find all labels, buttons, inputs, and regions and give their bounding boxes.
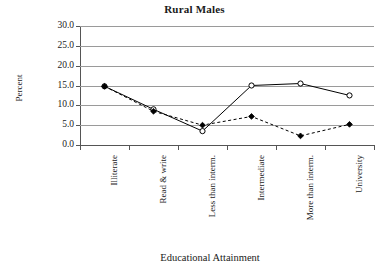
x-category-label: Illiterate xyxy=(109,155,119,185)
y-tick-label: 20.0 xyxy=(38,61,74,71)
series-line xyxy=(105,86,350,136)
chart-container: Rural Males Percent 0.05.010.015.020.025… xyxy=(0,0,389,271)
y-tick-label: 15.0 xyxy=(38,81,74,91)
data-point-open-circle xyxy=(249,83,254,88)
y-tick-label: 30.0 xyxy=(38,21,74,31)
data-point-open-circle xyxy=(200,129,205,134)
series-layer xyxy=(80,26,374,145)
x-category-label: Less than interm. xyxy=(207,155,217,217)
x-tick-marks-group xyxy=(80,145,374,151)
plot-area xyxy=(80,26,374,145)
chart-title: Rural Males xyxy=(0,3,389,15)
x-axis-title: Educational Attainment xyxy=(60,252,360,263)
x-tick-mark xyxy=(374,145,375,150)
x-category-label: University xyxy=(354,155,364,193)
x-tick-mark xyxy=(129,145,130,150)
data-point-filled-diamond xyxy=(347,121,353,127)
data-point-open-circle xyxy=(347,93,352,98)
y-tick-label: 25.0 xyxy=(38,41,74,51)
y-tick-label: 0.0 xyxy=(38,140,74,150)
y-tick-label: 5.0 xyxy=(38,120,74,130)
y-tick-label: 10.0 xyxy=(38,100,74,110)
data-point-filled-diamond xyxy=(298,133,304,139)
x-category-label: More than interm. xyxy=(305,155,315,220)
x-tick-mark xyxy=(227,145,228,150)
x-category-label: Read & write xyxy=(158,155,168,204)
y-axis-title: Percent xyxy=(14,58,24,118)
x-tick-mark xyxy=(276,145,277,150)
series-line xyxy=(105,84,350,132)
x-tick-mark xyxy=(80,145,81,150)
data-point-filled-diamond xyxy=(200,122,206,128)
data-point-filled-diamond xyxy=(249,114,255,120)
x-tick-mark xyxy=(325,145,326,150)
data-point-open-circle xyxy=(298,81,303,86)
x-tick-mark xyxy=(178,145,179,150)
x-category-label: Intermediate xyxy=(256,155,266,200)
